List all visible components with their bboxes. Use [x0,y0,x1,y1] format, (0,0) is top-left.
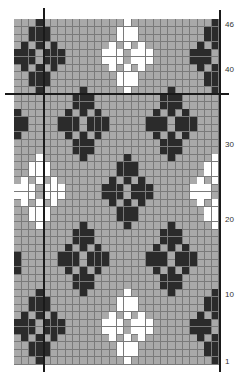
row-label-10: 10 [225,291,234,299]
row-label-20: 20 [225,216,234,224]
horizontal-rule [5,93,229,95]
row-label-1: 1 [225,358,229,366]
vertical-rule-left [43,8,45,372]
row-label-30: 30 [225,141,234,149]
knitting-chart-grid [14,19,219,364]
row-label-46: 46 [225,21,234,29]
row-label-40: 40 [225,66,234,74]
vertical-rule-right [219,10,221,372]
